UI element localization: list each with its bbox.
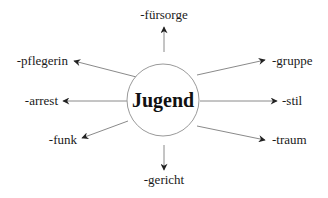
label-gruppe: -gruppe xyxy=(272,53,313,68)
label-pflegerin: -pflegerin xyxy=(17,53,69,68)
word-formation-diagram: Jugend -fürsorge-gruppe-stil-traum-geric… xyxy=(0,0,328,198)
center-label: Jugend xyxy=(132,89,194,112)
label-traum: -traum xyxy=(272,132,307,147)
arrow-gruppe xyxy=(197,60,265,75)
label-stil: -stil xyxy=(282,93,303,108)
label-funk: -funk xyxy=(49,132,78,147)
arrow-funk xyxy=(82,121,128,138)
label-fuersorge: -fürsorge xyxy=(140,7,188,22)
label-gericht: -gericht xyxy=(144,172,185,187)
label-arrest: -arrest xyxy=(25,93,59,108)
arrow-traum xyxy=(197,126,265,140)
